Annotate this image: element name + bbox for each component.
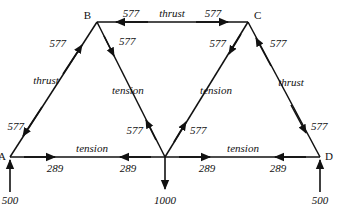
- force-value-CD-upper: 577: [270, 37, 287, 49]
- force-value-CD-lower: 577: [311, 120, 328, 132]
- force-type-CE: tension: [200, 84, 232, 96]
- force-type-ED: tension: [227, 142, 259, 154]
- force-arrow-BE-upper: [104, 36, 114, 56]
- truss-force-diagram: B C A D 577 thrust 577 577 thrust 577 57…: [0, 0, 337, 210]
- load-value-E: 1000: [154, 194, 177, 206]
- force-value-CE-lower: 577: [190, 124, 207, 136]
- force-value-AE-right: 289: [120, 162, 137, 174]
- force-arrow-CE-lower: [174, 122, 186, 142]
- force-arrow-CD-lower: [291, 105, 306, 133]
- truss-diagram-canvas: B C A D 577 thrust 577 577 thrust 577 57…: [0, 0, 337, 210]
- force-value-AE-left: 289: [47, 162, 64, 174]
- force-arrow-AB-lower: [23, 107, 42, 136]
- reaction-value-A: 500: [2, 194, 19, 206]
- node-label-B: B: [84, 9, 91, 21]
- force-type-AB: thrust: [33, 74, 60, 86]
- reaction-value-D: 500: [312, 194, 329, 206]
- force-value-BE-lower: 577: [127, 124, 144, 136]
- force-value-CE-upper: 577: [210, 37, 227, 49]
- force-value-AB-lower: 577: [8, 120, 25, 132]
- force-arrow-AB-upper: [63, 45, 82, 74]
- force-type-BE: tension: [112, 84, 144, 96]
- force-arrow-BE-lower: [146, 120, 156, 140]
- node-label-A: A: [0, 150, 6, 162]
- force-value-BC-right: 577: [205, 7, 222, 19]
- force-type-BC: thrust: [159, 7, 186, 19]
- force-arrow-CD-upper: [256, 38, 271, 66]
- force-value-AB-upper: 577: [50, 37, 67, 49]
- node-label-D: D: [325, 150, 333, 162]
- force-type-AE: tension: [76, 142, 108, 154]
- force-type-CD: thrust: [278, 76, 305, 88]
- force-value-ED-left: 289: [199, 162, 216, 174]
- node-label-C: C: [254, 9, 261, 21]
- force-value-BC-left: 577: [123, 7, 140, 19]
- force-value-BE-upper: 577: [119, 35, 136, 47]
- force-value-ED-right: 289: [270, 162, 287, 174]
- force-arrow-CE-upper: [229, 34, 241, 54]
